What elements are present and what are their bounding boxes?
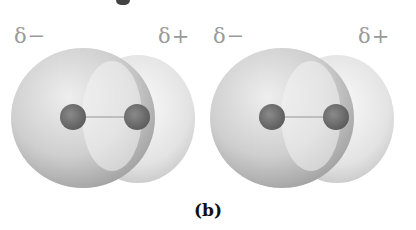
atom-right	[124, 104, 150, 130]
atom-left	[259, 104, 285, 130]
atom-left	[60, 104, 86, 130]
atom-right	[323, 104, 349, 130]
molecule-right: δ− δ+	[207, 24, 407, 194]
cropped-glyph-fragment	[116, 0, 130, 5]
figure-caption: (b)	[0, 200, 416, 220]
electron-density-cloud	[8, 24, 208, 194]
electron-density-cloud	[207, 24, 407, 194]
molecule-left: δ− δ+	[8, 24, 208, 194]
